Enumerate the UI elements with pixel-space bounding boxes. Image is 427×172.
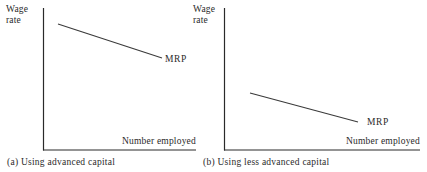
panel-b-y-axis-label: Wage rate [193,4,215,25]
panel-a-x-axis-label: Number employed [122,136,196,147]
panel-b-x-axis-label: Number employed [346,136,420,147]
chart-panel-b: Wage rate Number employed MRP (b) Using … [213,0,427,172]
panel-b-mrp-curve [250,93,358,122]
panel-a-mrp-curve [58,24,162,58]
panel-a-mrp-label: MRP [165,54,187,64]
chart-panel-a: Wage rate Number employed MRP (a) Using … [0,0,213,172]
panel-a-caption: (a) Using advanced capital [7,157,115,167]
panel-b-caption: (b) Using less advanced capital [203,157,329,167]
figure-mrp-comparison: Wage rate Number employed MRP (a) Using … [0,0,427,172]
panel-a-y-axis-label: Wage rate [6,4,28,25]
panel-b-mrp-label: MRP [367,117,389,127]
